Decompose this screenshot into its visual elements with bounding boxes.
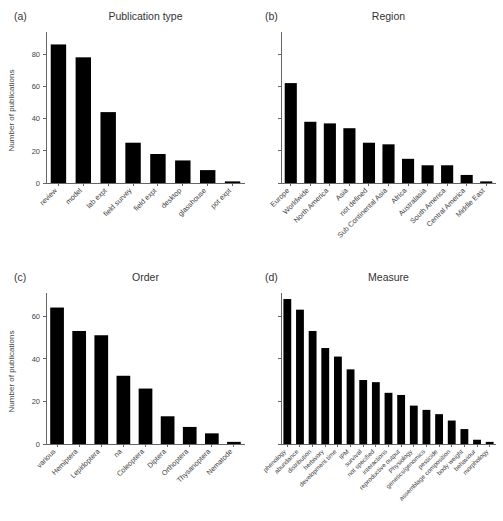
bar [139, 389, 153, 444]
bar [76, 57, 91, 183]
panel-title: Publication type [108, 10, 182, 22]
bar [460, 429, 468, 444]
publication-summary-figure: (a)Publication type020406080Number of pu… [0, 0, 503, 521]
panel-b-region: (b)RegionEuropeWorldwideNorth AmericaAsi… [251, 0, 502, 260]
chart-d: (d)Measurephenologyabundancedistribution… [251, 261, 502, 521]
y-tick-label: 60 [32, 82, 40, 91]
bar [51, 44, 66, 183]
bar [161, 416, 175, 444]
y-axis-title: Number of publications [7, 331, 16, 413]
y-tick-label: 60 [32, 312, 40, 321]
chart-c: (c)Order0204060Number of publicationsvar… [0, 261, 251, 521]
panel-tag: (a) [14, 10, 27, 22]
bar [343, 128, 355, 183]
bar [324, 123, 336, 183]
y-tick-label: 20 [32, 147, 40, 156]
bar [435, 414, 443, 444]
panel-d-measure: (d)Measurephenologyabundancedistribution… [251, 261, 502, 521]
bar [285, 83, 297, 183]
bar [347, 369, 355, 444]
y-axis-title: Number of publications [7, 70, 16, 152]
bar [422, 165, 434, 183]
x-category-label: field expt [132, 186, 159, 213]
bar [363, 143, 375, 183]
chart-a: (a)Publication type020406080Number of pu… [0, 0, 251, 260]
x-category-label: na [112, 447, 124, 459]
bar [304, 122, 316, 183]
bar [402, 159, 414, 183]
panel-title: Region [372, 10, 405, 22]
bar [200, 170, 215, 183]
bar [150, 154, 165, 183]
y-tick-label: 80 [32, 50, 40, 59]
bar [225, 181, 240, 183]
bar [372, 382, 380, 444]
y-tick-label: 40 [32, 355, 40, 364]
y-tick-label: 0 [36, 179, 40, 188]
x-category-label: model [64, 186, 84, 206]
bar [480, 181, 492, 183]
bar [296, 310, 304, 444]
bar [382, 144, 394, 183]
bar [334, 357, 342, 444]
x-category-label: Asia [334, 186, 350, 202]
panel-title: Measure [368, 271, 409, 283]
bar [473, 440, 481, 444]
bar [359, 380, 367, 444]
bar [461, 175, 473, 183]
x-category-label: pot expt [209, 186, 233, 210]
panel-tag: (d) [265, 271, 278, 283]
bar [441, 165, 453, 183]
bar [227, 442, 241, 444]
y-tick-label: 0 [36, 440, 40, 449]
bar [423, 410, 431, 444]
bar [448, 421, 456, 444]
chart-b: (b)RegionEuropeWorldwideNorth AmericaAsi… [251, 0, 502, 260]
bar [100, 112, 115, 183]
x-category-label: desktop [159, 186, 183, 210]
panel-tag: (c) [14, 271, 26, 283]
bar [486, 442, 494, 444]
bar [309, 331, 317, 444]
bar [125, 143, 140, 183]
bar [117, 376, 131, 444]
panel-tag: (b) [265, 10, 278, 22]
y-tick-label: 20 [32, 397, 40, 406]
bar [283, 299, 291, 444]
panel-a-publication-type: (a)Publication type020406080Number of pu… [0, 0, 251, 260]
bar [385, 393, 393, 444]
bar [175, 160, 190, 183]
x-category-label: lab expt [84, 186, 108, 210]
x-category-label: review [38, 185, 60, 207]
y-tick-label: 40 [32, 114, 40, 123]
bar [397, 395, 405, 444]
bar [72, 331, 86, 444]
panel-title: Order [132, 271, 159, 283]
bar [321, 348, 329, 444]
bar [205, 433, 219, 444]
bar [410, 406, 418, 444]
panel-c-order: (c)Order0204060Number of publicationsvar… [0, 261, 251, 521]
bar [50, 308, 64, 444]
bar [94, 335, 108, 444]
bar [183, 427, 197, 444]
